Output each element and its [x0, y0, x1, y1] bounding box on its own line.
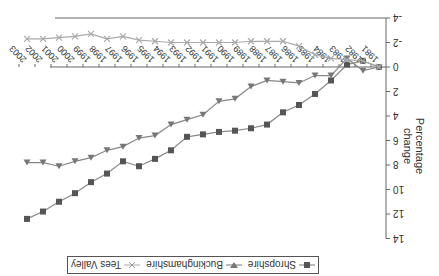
x-tick-label: 1990	[215, 43, 236, 64]
y-tick-label: 2	[393, 86, 399, 97]
triangle-marker-icon	[226, 261, 242, 269]
square-marker-icon	[299, 261, 315, 269]
x-tick-label: 2002	[23, 43, 44, 64]
y-tick-label: 8	[393, 159, 399, 170]
legend-item-buckinghamshire: Buckinghamshire	[146, 260, 242, 271]
square-marker-icon	[200, 131, 206, 137]
square-marker-icon	[88, 179, 94, 185]
square-marker-icon	[72, 190, 78, 196]
square-marker-icon	[168, 147, 174, 153]
y-tick-label: 0	[393, 61, 399, 72]
x-tick-label: 1995	[135, 43, 156, 64]
triangle-marker-icon	[200, 112, 207, 118]
x-tick-label: 2001	[39, 43, 60, 64]
x-tick-label: 1989	[231, 43, 252, 64]
square-marker-icon	[312, 91, 318, 97]
square-marker-icon	[264, 122, 270, 128]
square-marker-icon	[24, 216, 30, 222]
square-marker-icon	[216, 129, 222, 135]
x-tick-label: 2000	[55, 43, 76, 64]
x-tick-label: 1992	[183, 43, 204, 64]
square-marker-icon	[40, 209, 46, 215]
legend-item-shropshire: Shropshire	[248, 260, 315, 271]
square-marker-icon	[232, 128, 238, 134]
legend: Shropshire Buckinghamshire Tees Valley	[67, 256, 319, 274]
square-marker-icon	[280, 109, 286, 115]
x-tick-label: 1993	[167, 43, 188, 64]
y-tick-label: 14	[393, 233, 405, 244]
x-tick-label: 2003	[7, 43, 28, 64]
square-marker-icon	[296, 102, 302, 108]
x-tick-label: 1996	[119, 43, 140, 64]
square-marker-icon	[56, 199, 62, 205]
square-marker-icon	[152, 156, 158, 162]
y-tick-label: -2	[393, 37, 402, 48]
x-tick-label: 1994	[151, 43, 172, 64]
square-marker-icon	[248, 125, 254, 131]
square-marker-icon	[184, 134, 190, 140]
y-tick-label: -4	[393, 12, 402, 23]
square-marker-icon	[104, 171, 110, 177]
square-marker-icon	[120, 158, 126, 164]
y-tick-label: 4	[393, 110, 399, 121]
x-tick-label: 1987	[263, 43, 284, 64]
x-tick-label: 1998	[87, 43, 108, 64]
series-line-shropshire	[27, 61, 379, 219]
square-marker-icon	[136, 163, 142, 169]
triangle-marker-icon	[184, 117, 191, 123]
y-axis-label: Percentage change	[402, 101, 426, 191]
x-tick-label: 1997	[103, 43, 124, 64]
x-tick-label: 1999	[71, 43, 92, 64]
x-tick-label: 1988	[247, 43, 268, 64]
y-tick-label: 12	[393, 208, 405, 219]
x-marker-icon	[124, 261, 140, 269]
legend-item-tees-valley: Tees Valley	[71, 260, 140, 271]
x-tick-label: 1986	[279, 43, 300, 64]
x-tick-label: 1991	[199, 43, 220, 64]
y-tick-label: 6	[393, 135, 399, 146]
line-chart: -4-2024681012141981198219831984198519861…	[0, 0, 439, 276]
chart-container: -4-2024681012141981198219831984198519861…	[0, 0, 439, 276]
